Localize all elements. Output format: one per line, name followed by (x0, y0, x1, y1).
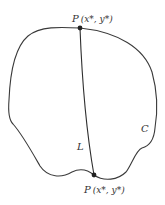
closed-curve-diagram: P(x*, y*) P(x*, y*) L C (0, 0, 165, 205)
curve-label: C (141, 123, 149, 134)
bottom-point-marker (92, 173, 97, 178)
top-point-label: P(x*, y*) (71, 13, 113, 24)
closed-curve-c (9, 27, 157, 179)
bottom-point-label: P(x*, y*) (83, 184, 125, 195)
chord-l (80, 28, 94, 175)
top-point-marker (78, 26, 83, 31)
chord-label: L (76, 141, 84, 152)
